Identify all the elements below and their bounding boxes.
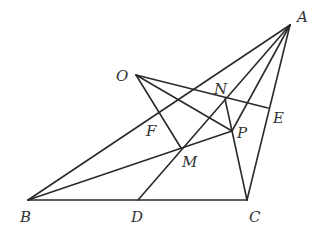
- point-label-B: B: [19, 208, 31, 226]
- point-label-D: D: [130, 208, 143, 226]
- segment-BP: [28, 131, 232, 200]
- segment-NP: [225, 99, 232, 131]
- segment-OM: [136, 75, 181, 148]
- geometry-diagram: ABCDEFMNOP: [0, 0, 330, 240]
- segment-AD: [138, 25, 290, 200]
- point-label-A: A: [295, 8, 308, 26]
- point-label-C: C: [249, 208, 261, 226]
- segments: [28, 25, 290, 200]
- point-label-E: E: [272, 109, 284, 127]
- segment-OE: [136, 75, 268, 108]
- point-labels: ABCDEFMNOP: [19, 8, 308, 226]
- point-label-O: O: [116, 67, 128, 85]
- point-label-M: M: [181, 153, 198, 171]
- point-label-P: P: [236, 124, 248, 142]
- point-label-F: F: [145, 122, 157, 140]
- point-label-N: N: [213, 80, 228, 98]
